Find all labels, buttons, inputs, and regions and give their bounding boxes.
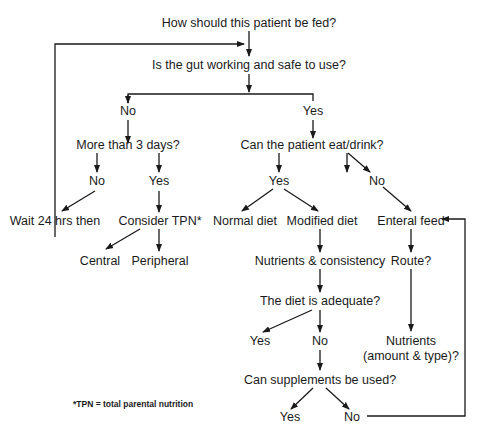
nutrients-amount-line1: Nutrients bbox=[386, 334, 436, 348]
supplements-question: Can supplements be used? bbox=[244, 373, 396, 387]
more-than-3-days-question: More than 3 days? bbox=[76, 138, 180, 152]
eat-yes-label: Yes bbox=[269, 174, 289, 188]
eat-drink-question: Can the patient eat/drink? bbox=[240, 138, 383, 152]
gut-question: Is the gut working and safe to use? bbox=[152, 58, 346, 72]
normal-diet: Normal diet bbox=[213, 214, 277, 228]
diet-adequate-question: The diet is adequate? bbox=[260, 294, 380, 308]
start-question: How should this patient be fed? bbox=[162, 16, 336, 30]
wait-24-hrs: Wait 24 hrs then bbox=[10, 214, 101, 228]
more3-no-label: No bbox=[89, 174, 105, 188]
adequate-no-label: No bbox=[312, 334, 328, 348]
nutrients-amount-line2: (amount & type)? bbox=[363, 349, 459, 363]
enteral-feed: Enteral feed bbox=[377, 214, 444, 228]
supp-yes-label: Yes bbox=[280, 410, 300, 424]
nutrients-consistency: Nutrients & consistency bbox=[255, 254, 386, 268]
eat-no-label: No bbox=[369, 174, 385, 188]
gut-no-label: No bbox=[120, 104, 136, 118]
gut-yes-label: Yes bbox=[303, 104, 323, 118]
tpn-footnote: *TPN = total parental nutrition bbox=[73, 399, 193, 409]
route-question: Route? bbox=[391, 254, 431, 268]
more3-yes-label: Yes bbox=[149, 174, 169, 188]
central: Central bbox=[80, 254, 120, 268]
modified-diet: Modified diet bbox=[287, 214, 358, 228]
adequate-yes-label: Yes bbox=[250, 334, 270, 348]
consider-tpn: Consider TPN* bbox=[118, 214, 201, 228]
peripheral: Peripheral bbox=[132, 254, 189, 268]
supp-no-label: No bbox=[344, 410, 360, 424]
